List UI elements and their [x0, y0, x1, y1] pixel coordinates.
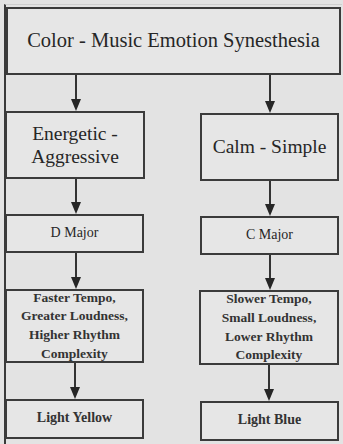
arrow-line	[75, 179, 77, 203]
arrow-down-icon	[265, 278, 275, 290]
arrow-down-icon	[265, 101, 275, 113]
arrow-line	[74, 363, 76, 388]
key-node-c-major: C Major	[200, 216, 339, 255]
feature-line: Greater Loudness,	[21, 307, 128, 326]
arrow-down-icon	[71, 99, 81, 111]
key-text: D Major	[51, 225, 99, 241]
key-text: C Major	[246, 227, 293, 243]
arrow-line	[269, 181, 271, 205]
feature-line: Faster Tempo,	[21, 289, 128, 308]
title-text: Color - Music Emotion Synesthesia	[27, 29, 320, 53]
arrow-down-icon	[70, 387, 80, 399]
arrow-down-icon	[264, 389, 274, 401]
emotion-node-calm: Calm - Simple	[200, 113, 339, 181]
key-node-d-major: D Major	[5, 214, 144, 253]
arrow-down-icon	[265, 204, 275, 216]
feature-line: Complexity	[21, 345, 128, 364]
emotion-line: Energetic -	[31, 122, 119, 145]
feature-line: Small Loudness,	[222, 309, 317, 328]
features-node-left: Faster Tempo, Greater Loudness, Higher R…	[5, 289, 144, 363]
title-node: Color - Music Emotion Synesthesia	[6, 7, 341, 75]
emotion-text: Calm - Simple	[213, 135, 327, 158]
color-node-light-blue: Light Blue	[200, 401, 339, 441]
feature-line: Lower Rhythm	[222, 328, 317, 347]
feature-line: Slower Tempo,	[222, 290, 317, 309]
features-node-right: Slower Tempo, Small Loudness, Lower Rhyt…	[199, 290, 339, 365]
arrow-line	[75, 75, 77, 101]
emotion-line: Aggressive	[31, 145, 119, 168]
color-text: Light Blue	[238, 412, 301, 428]
emotion-node-energetic: Energetic - Aggressive	[5, 111, 145, 179]
arrow-line	[75, 253, 77, 278]
color-node-light-yellow: Light Yellow	[5, 399, 144, 439]
arrow-line	[269, 75, 271, 102]
arrow-down-icon	[71, 202, 81, 214]
arrow-down-icon	[71, 277, 81, 289]
feature-line: Complexity	[222, 346, 317, 365]
feature-line: Higher Rhythm	[21, 326, 128, 345]
arrow-line	[269, 255, 271, 279]
color-text: Light Yellow	[37, 410, 112, 426]
arrow-line	[268, 365, 270, 390]
